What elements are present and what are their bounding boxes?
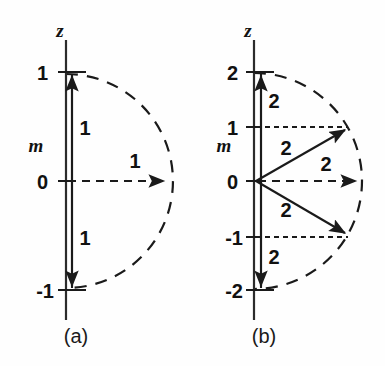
panel-b-vectorlabel-m-minus2: 2 [268,246,279,268]
panel-a-ticklabel-0: 0 [37,171,48,193]
panel-a-vectorlabel-upper: 1 [79,117,90,139]
panel-b-vectorlabel-m-minus1: 2 [280,199,291,221]
panel-b-vector-m-minus1 [256,181,345,233]
panel-b-vectorlabel-m-zero: 2 [320,153,331,175]
panel-a: z m 1 0 -1 1 1 1 (a) [29,20,173,347]
panel-a-axis-label-m: m [29,135,44,156]
panel-a-axis-label-z: z [55,20,64,41]
panel-b-caption: (b) [252,325,276,347]
panel-a-ticklabel-minus1: -1 [36,280,54,302]
panel-b: z m 2 1 0 -1 -2 2 2 2 2 2 (b) [217,20,362,347]
panel-b-axis-label-z: z [243,20,252,41]
panel-b-vector-m-plus1 [256,130,345,181]
panel-b-ticklabel-minus2: -2 [225,280,243,302]
panel-a-caption: (a) [64,325,88,347]
panel-b-vectorlabel-m-plus1: 2 [280,137,291,159]
panel-b-ticklabel-1: 1 [227,117,238,139]
panel-b-vectorlabel-m-plus2: 2 [268,90,279,112]
panel-a-vectorlabel-lower: 1 [79,227,90,249]
panel-b-ticklabel-2: 2 [227,62,238,84]
panel-b-ticklabel-0: 0 [227,171,238,193]
panel-b-ticklabel-minus1: -1 [225,227,243,249]
panel-a-ticklabel-1: 1 [37,62,48,84]
panel-a-vectorlabel-middle: 1 [129,150,140,172]
figure-root: z m 1 0 -1 1 1 1 (a) [0,0,385,366]
vector-model-diagram: z m 1 0 -1 1 1 1 (a) [0,0,385,366]
